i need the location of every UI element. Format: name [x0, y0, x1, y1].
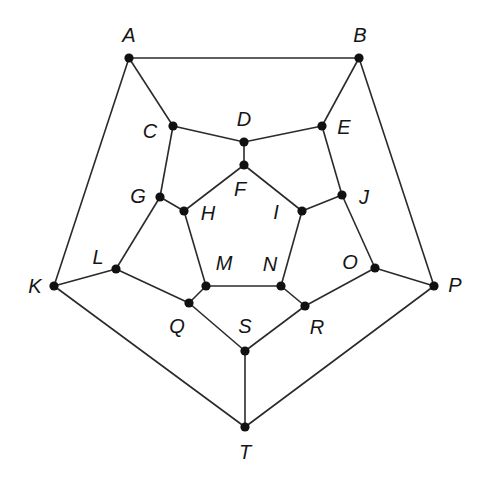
edge-o-r	[305, 268, 375, 306]
vertex-o	[370, 263, 379, 272]
vertex-i	[297, 206, 306, 215]
vertex-label-c: C	[143, 120, 158, 142]
vertex-b	[354, 53, 363, 62]
vertex-l	[111, 264, 120, 273]
dodecahedron-graph: ABCDEFGHIJKLMNOPQRST	[0, 0, 485, 484]
vertex-m	[201, 281, 210, 290]
edge-l-q	[116, 269, 189, 303]
vertex-label-t: T	[239, 441, 253, 463]
vertex-label-q: Q	[169, 315, 185, 337]
vertex-h	[179, 206, 188, 215]
vertex-label-f: F	[234, 178, 248, 200]
vertex-label-n: N	[263, 253, 278, 275]
vertex-label-r: R	[310, 316, 324, 338]
edge-k-t	[54, 286, 245, 427]
vertex-label-p: P	[448, 274, 462, 296]
vertex-label-a: A	[121, 24, 135, 46]
vertex-label-j: J	[358, 186, 370, 208]
edge-b-p	[359, 58, 434, 286]
vertex-label-o: O	[342, 251, 358, 273]
vertex-q	[184, 298, 193, 307]
vertex-n	[276, 281, 285, 290]
vertex-label-l: L	[92, 246, 103, 268]
edge-i-n	[281, 211, 302, 286]
vertex-e	[317, 121, 326, 130]
vertex-j	[337, 190, 346, 199]
edge-d-e	[244, 126, 322, 142]
edge-k-l	[54, 269, 116, 286]
vertex-t	[240, 422, 249, 431]
vertex-label-e: E	[337, 116, 351, 138]
edge-c-g	[160, 126, 173, 197]
vertex-c	[168, 121, 177, 130]
vertex-label-h: H	[201, 202, 216, 224]
vertex-label-i: I	[273, 201, 279, 223]
vertex-label-s: S	[238, 315, 252, 337]
vertex-label-b: B	[353, 24, 366, 46]
edge-a-c	[129, 58, 173, 126]
edge-n-r	[281, 286, 305, 306]
vertex-a	[124, 53, 133, 62]
vertex-p	[429, 281, 438, 290]
vertex-label-k: K	[28, 275, 43, 297]
vertex-s	[240, 346, 249, 355]
vertex-k	[49, 281, 58, 290]
edge-q-s	[189, 303, 245, 351]
edge-o-p	[375, 268, 434, 286]
edge-i-j	[302, 195, 342, 211]
edge-c-d	[173, 126, 244, 142]
vertex-label-g: G	[130, 185, 146, 207]
vertex-f	[239, 160, 248, 169]
vertex-r	[300, 301, 309, 310]
edge-g-l	[116, 197, 160, 269]
vertex-label-d: D	[237, 108, 251, 130]
edge-p-t	[245, 286, 434, 427]
vertex-label-m: M	[216, 252, 233, 274]
edge-r-s	[245, 306, 305, 351]
vertex-d	[239, 137, 248, 146]
vertex-g	[155, 192, 164, 201]
